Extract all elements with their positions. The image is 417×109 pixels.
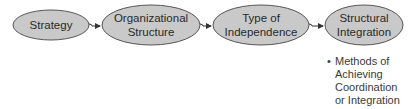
arrow-icon: [309, 24, 323, 26]
node-type-of-independence-label: Type of Independence: [213, 5, 309, 45]
arrow-icon: [200, 24, 211, 26]
node-structural-integration-label: Structural Integration: [325, 5, 403, 45]
bullet-icon: •: [327, 55, 331, 68]
integration-methods-text: Methods of Achieving Coordination or Int…: [327, 55, 400, 107]
node-organizational-structure-label: Organizational Structure: [102, 5, 200, 45]
integration-methods-note: • Methods of Achieving Coordination or I…: [327, 55, 400, 107]
node-strategy-label: Strategy: [13, 10, 89, 40]
arrow-icon: [89, 24, 100, 26]
